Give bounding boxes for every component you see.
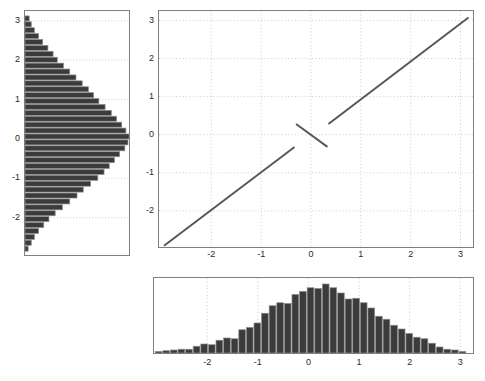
tick-label: 0	[140, 130, 154, 139]
tick-label: -2	[0, 213, 20, 222]
tick-label: 1	[0, 95, 20, 104]
main-plot-area	[158, 10, 474, 248]
tick-label: -1	[0, 173, 20, 182]
main-scatter-panel: 3210-1-2 -2-10123	[140, 0, 485, 270]
tick-label: 1	[140, 92, 154, 101]
tick-label: -2	[201, 250, 221, 259]
tick-label: 0	[298, 358, 318, 367]
left-histogram-plot-area	[24, 10, 130, 256]
tick-label: 0	[0, 134, 20, 143]
tick-label: -1	[248, 358, 268, 367]
left-marginal-histogram-panel: 3210-1-2	[0, 0, 140, 270]
tick-label: 3	[450, 358, 470, 367]
tick-label: 2	[140, 54, 154, 63]
tick-label: 1	[349, 358, 369, 367]
main-plot-svg	[159, 11, 473, 247]
tick-label: 3	[451, 250, 471, 259]
tick-label: 0	[301, 250, 321, 259]
figure-canvas: 3210-1-2 3210-1-2 -2-10123 -2-10123	[0, 0, 485, 381]
tick-label: 2	[400, 358, 420, 367]
bottom-histogram-plot-area	[153, 277, 474, 354]
tick-label: -2	[197, 358, 217, 367]
bottom-marginal-histogram-panel: -2-10123	[140, 270, 485, 381]
tick-label: -1	[140, 168, 154, 177]
tick-label: 2	[0, 55, 20, 64]
tick-label: 3	[0, 16, 20, 25]
tick-label: 1	[351, 250, 371, 259]
tick-label: -1	[251, 250, 271, 259]
left-histogram-svg	[25, 11, 129, 255]
tick-label: 2	[401, 250, 421, 259]
bottom-histogram-svg	[154, 278, 473, 353]
tick-label: 3	[140, 16, 154, 25]
tick-label: -2	[140, 206, 154, 215]
